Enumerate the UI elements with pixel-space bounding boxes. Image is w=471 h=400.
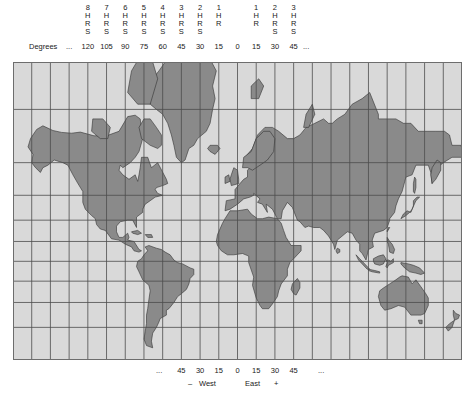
top-degrees-ellipsis-left: ... (66, 41, 72, 52)
top-degree-tick-label: 60 (154, 41, 172, 52)
bottom-degrees-ellipsis-left: ... (156, 365, 162, 376)
timezone-hours-column: 7HRS (100, 4, 114, 36)
hemisphere-legend: – West East + (0, 378, 471, 392)
top-degree-tick-label: 75 (135, 41, 153, 52)
world-map[interactable] (13, 62, 462, 360)
timezone-unit-letter: S (100, 28, 114, 36)
degrees-axis-label: Degrees (29, 41, 57, 52)
bottom-degree-tick-label: 15 (247, 365, 265, 376)
bottom-degree-tick-label: 15 (210, 365, 228, 376)
top-degree-tick-label: 45 (172, 41, 190, 52)
top-degree-tick-label: 105 (98, 41, 116, 52)
top-degree-tick-label: 30 (266, 41, 284, 52)
top-degrees-ellipsis-right: ... (303, 41, 309, 52)
east-plus-sign: + (274, 378, 278, 390)
timezone-hours-column: 6HRS (118, 4, 132, 36)
west-minus-sign: – (188, 378, 192, 390)
top-degree-tick-label: 0 (229, 41, 247, 52)
top-degree-tick-label: 15 (247, 41, 265, 52)
timezone-unit-letter: S (268, 28, 282, 36)
bottom-degrees-row: ... ... 4530150153045 (0, 365, 471, 377)
timezone-unit-letter: S (118, 28, 132, 36)
bottom-degree-tick-label: 45 (285, 365, 303, 376)
timezone-hours-column: 2HRS (193, 4, 207, 36)
east-label: East (245, 378, 260, 390)
timezone-hours-column: 3HRS (174, 4, 188, 36)
timezone-unit-letter: R (212, 20, 226, 28)
bottom-degree-tick-label: 30 (266, 365, 284, 376)
timezone-hours-column: 3HRS (287, 4, 301, 36)
top-degree-tick-label: 90 (116, 41, 134, 52)
top-degree-tick-label: 30 (191, 41, 209, 52)
bottom-degree-tick-label: 0 (229, 365, 247, 376)
timezone-unit-letter: S (156, 28, 170, 36)
timezone-hours-column: 1HR (212, 4, 226, 28)
timezone-unit-letter: S (137, 28, 151, 36)
timezone-hours-column: 1HR (249, 4, 263, 28)
map-canvas (13, 62, 462, 360)
timezone-unit-letter: S (174, 28, 188, 36)
bottom-degrees-ellipsis-right: ... (318, 365, 324, 376)
bottom-degree-tick-label: 30 (191, 365, 209, 376)
timezone-hours-column: 2HRS (268, 4, 282, 36)
timezone-header-row: 8HRS7HRS6HRS5HRS4HRS3HRS2HRS1HR1HR2HRS3H… (0, 4, 471, 40)
timezone-unit-letter: S (193, 28, 207, 36)
bottom-degree-tick-label: 45 (172, 365, 190, 376)
top-degrees-row: Degrees ... ... 120105907560453015015304… (0, 41, 471, 53)
top-degree-tick-label: 120 (79, 41, 97, 52)
top-degree-tick-label: 15 (210, 41, 228, 52)
top-degree-tick-label: 45 (285, 41, 303, 52)
timezone-hours-column: 5HRS (137, 4, 151, 36)
timezone-unit-letter: S (81, 28, 95, 36)
timezone-hours-column: 4HRS (156, 4, 170, 36)
timezone-unit-letter: R (249, 20, 263, 28)
world-time-zone-map-page: 8HRS7HRS6HRS5HRS4HRS3HRS2HRS1HR1HR2HRS3H… (0, 0, 471, 400)
west-label: West (199, 378, 216, 390)
timezone-unit-letter: S (287, 28, 301, 36)
timezone-hours-column: 8HRS (81, 4, 95, 36)
